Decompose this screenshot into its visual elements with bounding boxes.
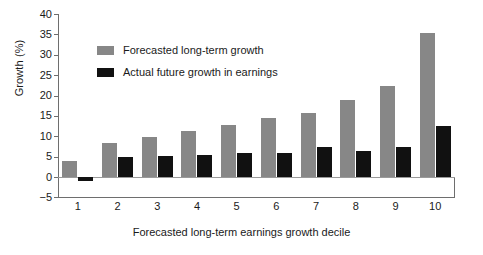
bar-chart: Growth (%) −50510152025303540 1234567891… — [0, 0, 483, 255]
bar-actual — [158, 156, 173, 177]
bar-forecast — [221, 125, 236, 177]
x-tick-label: 3 — [137, 201, 177, 212]
bars-layer — [0, 0, 483, 255]
legend-item-label: Forecasted long-term growth — [123, 45, 264, 56]
bar-forecast — [340, 100, 355, 177]
black-swatch-icon — [97, 68, 114, 77]
legend-item: Actual future growth in earnings — [97, 65, 278, 80]
gray-swatch-icon — [97, 46, 114, 55]
bar-actual — [237, 153, 252, 177]
x-tick-label: 2 — [98, 201, 138, 212]
bar-forecast — [380, 86, 395, 177]
bar-actual — [118, 157, 133, 177]
bar-forecast — [102, 143, 117, 177]
bar-forecast — [142, 137, 157, 177]
x-tick-label: 4 — [177, 201, 217, 212]
bar-actual — [396, 147, 411, 177]
x-tick-label: 5 — [217, 201, 257, 212]
legend-item: Forecasted long-term growth — [97, 43, 278, 58]
x-tick-label: 10 — [415, 201, 455, 212]
bar-forecast — [261, 118, 276, 177]
x-axis-title: Forecasted long-term earnings growth dec… — [0, 226, 483, 238]
x-tick-label: 8 — [336, 201, 376, 212]
bar-actual — [356, 151, 371, 177]
bar-forecast — [301, 113, 316, 177]
x-tick-label: 7 — [296, 201, 336, 212]
x-tick-label: 1 — [58, 201, 98, 212]
bar-actual — [197, 155, 212, 177]
bar-actual — [78, 177, 93, 181]
x-tick-label: 9 — [375, 201, 415, 212]
bar-actual — [277, 153, 292, 177]
bar-forecast — [181, 131, 196, 177]
bar-forecast — [62, 161, 77, 177]
bar-forecast — [420, 33, 435, 177]
legend-item-label: Actual future growth in earnings — [123, 67, 278, 78]
chart-legend: Forecasted long-term growth Actual futur… — [97, 43, 278, 87]
x-tick-label: 6 — [256, 201, 296, 212]
bar-actual — [436, 126, 451, 177]
bar-actual — [317, 147, 332, 177]
